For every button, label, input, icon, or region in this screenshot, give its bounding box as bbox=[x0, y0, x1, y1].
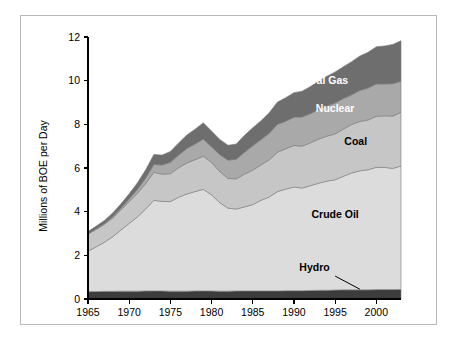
y-tick-label: 8 bbox=[74, 118, 80, 130]
chart-figure-frame: 0246810121965197019751980198519901995200… bbox=[20, 15, 437, 325]
y-axis-title: Millions of BOE per Day bbox=[37, 120, 49, 232]
x-tick-label: 1975 bbox=[159, 306, 183, 318]
y-tick-label: 6 bbox=[74, 162, 80, 174]
x-tick-label: 1990 bbox=[282, 306, 306, 318]
y-tick-label: 2 bbox=[74, 249, 80, 261]
x-tick-label: 1970 bbox=[118, 306, 142, 318]
nuclear-label: Nuclear bbox=[316, 102, 355, 114]
y-tick-label: 12 bbox=[68, 31, 80, 43]
stacked-area-chart: 0246810121965197019751980198519901995200… bbox=[21, 16, 438, 326]
x-tick-label: 1995 bbox=[323, 306, 347, 318]
y-tick-label: 4 bbox=[74, 205, 80, 217]
plot-areas bbox=[88, 41, 401, 299]
coal-label: Coal bbox=[344, 135, 367, 147]
hydro-label: Hydro bbox=[299, 261, 329, 273]
x-tick-label: 1965 bbox=[76, 306, 100, 318]
y-axis-title-group: Millions of BOE per Day bbox=[37, 120, 49, 232]
y-tick-label: 0 bbox=[74, 293, 80, 305]
x-tick-label: 1985 bbox=[241, 306, 265, 318]
natural-gas-label: Natural Gas bbox=[289, 74, 348, 86]
y-tick-label: 10 bbox=[68, 74, 80, 86]
crude-oil-label: Crude Oil bbox=[311, 208, 358, 220]
x-tick-label: 1980 bbox=[200, 306, 224, 318]
x-tick-label: 2000 bbox=[365, 306, 389, 318]
